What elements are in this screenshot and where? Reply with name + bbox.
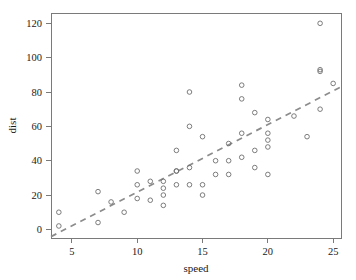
data-point (239, 83, 244, 88)
data-point (213, 158, 218, 163)
data-point (148, 179, 153, 184)
data-point (331, 81, 336, 86)
data-point (161, 193, 166, 198)
data-point (135, 196, 140, 201)
x-tick-label: 5 (69, 246, 74, 257)
data-point (252, 110, 257, 115)
y-tick-label: 60 (32, 121, 43, 132)
x-tick-label: 25 (328, 246, 339, 257)
data-point (161, 179, 166, 184)
y-tick-label: 80 (32, 87, 43, 98)
x-axis: 510152025 (69, 238, 338, 257)
data-point (135, 169, 140, 174)
data-point (226, 158, 231, 163)
y-axis: 020406080100120 (26, 18, 51, 235)
data-point (187, 90, 192, 95)
y-tick-label: 120 (26, 18, 42, 29)
x-tick-label: 15 (197, 246, 208, 257)
data-point (135, 182, 140, 187)
data-point (239, 131, 244, 136)
plot-canvas: 020406080100120510152025speeddist (0, 0, 356, 280)
data-point (174, 148, 179, 153)
data-point (200, 134, 205, 139)
data-point (187, 182, 192, 187)
y-tick-label: 0 (37, 224, 42, 235)
data-point (318, 21, 323, 26)
y-axis-title: dist (6, 118, 18, 134)
data-point (161, 186, 166, 191)
data-point (266, 131, 271, 136)
data-point (239, 97, 244, 102)
scatter-plot-figure: 020406080100120510152025speeddist (0, 0, 356, 280)
x-tick-label: 10 (132, 246, 143, 257)
data-point (109, 200, 114, 205)
data-points (57, 21, 336, 228)
data-point (200, 193, 205, 198)
data-point (200, 182, 205, 187)
data-point (122, 210, 127, 215)
data-point (57, 224, 62, 229)
data-point (226, 172, 231, 177)
data-point (266, 145, 271, 150)
data-point (292, 114, 297, 119)
data-point (252, 148, 257, 153)
data-point (266, 138, 271, 143)
data-point (213, 172, 218, 177)
data-point (318, 107, 323, 112)
y-tick-label: 20 (32, 190, 43, 201)
data-point (161, 203, 166, 208)
data-point (96, 220, 101, 225)
regression-line (51, 87, 341, 237)
data-point (252, 165, 257, 170)
data-point (266, 172, 271, 177)
data-point (266, 117, 271, 122)
y-tick-label: 100 (26, 52, 42, 63)
y-tick-label: 40 (32, 155, 43, 166)
data-point (305, 134, 310, 139)
data-point (57, 210, 62, 215)
data-point (148, 198, 153, 203)
x-axis-title: speed (183, 262, 209, 274)
data-point (174, 169, 179, 174)
data-point (239, 155, 244, 160)
data-point (174, 182, 179, 187)
data-point (187, 124, 192, 129)
data-point (96, 189, 101, 194)
plot-frame (52, 14, 342, 239)
x-tick-label: 20 (263, 246, 274, 257)
